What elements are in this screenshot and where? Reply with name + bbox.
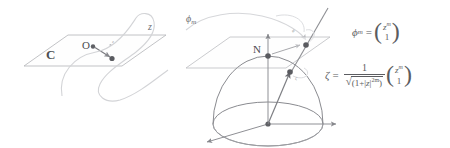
- paren-right-icon: ): [404, 65, 412, 84]
- phi-map-arc-path: [186, 13, 306, 40]
- paren-left-icon: (: [386, 65, 394, 84]
- label-sphere-point-zeta-small: ζ: [295, 76, 297, 81]
- formula-zeta-lhs: ζ: [325, 69, 329, 81]
- point-z-dot: [109, 56, 114, 61]
- denominator-open: (1+|: [352, 78, 366, 88]
- label-north-pole-N: N: [253, 44, 261, 55]
- formula-phi-map: ϕm = ( zm 1 ): [352, 21, 399, 43]
- formula-zeta-vector-top-row: zm: [395, 64, 403, 75]
- formula-zeta-denominator: √ (1+|z|2m): [344, 75, 385, 88]
- radical-body: (1+|z|2m): [351, 76, 383, 88]
- formula-zeta-fraction: 1 √ (1+|z|2m): [344, 62, 385, 88]
- label-origin-O: O: [82, 40, 90, 51]
- formula-zeta-map: ζ = 1 √ (1+|z|2m) ( zm 1 ): [325, 62, 411, 88]
- denominator-exponent: 2m: [371, 77, 379, 83]
- formula-phi-vector-top-row: zm: [383, 21, 391, 32]
- point-zeta-on-sphere: [287, 69, 293, 75]
- label-phi-subscript: m: [191, 18, 196, 26]
- paren-right-icon: ): [392, 22, 400, 41]
- phi-map-arc: [186, 13, 306, 40]
- label-source-point-z: z: [148, 22, 152, 32]
- ray-center-to-sphere-point: [268, 72, 290, 124]
- phi-map-secondary-arc: [276, 15, 304, 32]
- figure-canvas: C O z z ϕm N ϕ ζ ϕm = ( zm 1 ) ζ = 1 √: [0, 0, 450, 148]
- radical-group: √ (1+|z|2m): [346, 76, 383, 88]
- formula-zeta-column-vector: ( zm 1 ): [387, 64, 411, 86]
- formula-phi-vector-top-exponent: m: [387, 21, 391, 27]
- formula-phi-lhs-subscript: m: [358, 28, 363, 36]
- label-plane-point-phi-small: ϕ: [292, 28, 295, 33]
- label-source-point-z-small: z: [112, 39, 114, 44]
- formula-phi-column-vector: ( zm 1 ): [375, 21, 399, 43]
- point-N-dot: [265, 53, 271, 59]
- point-O-dot: [91, 44, 95, 48]
- axis-oblique-left: [207, 124, 268, 142]
- formula-zeta-equals: =: [332, 69, 338, 81]
- paren-left-icon: (: [374, 22, 382, 41]
- formula-phi-vector-bottom: 1: [385, 32, 390, 42]
- formula-zeta-numerator: 1: [358, 62, 371, 74]
- denominator-close: ): [379, 78, 382, 88]
- label-phi-map-curve: ϕm: [186, 14, 196, 26]
- point-phi-on-plane: [303, 42, 309, 48]
- formula-zeta-vector-bottom: 1: [397, 76, 402, 86]
- phi-secondary-arc-path: [276, 15, 304, 32]
- label-complex-plane-C: C: [46, 48, 55, 61]
- formula-phi-equals: =: [366, 26, 372, 38]
- formula-zeta-vector-top-exponent: m: [399, 64, 403, 70]
